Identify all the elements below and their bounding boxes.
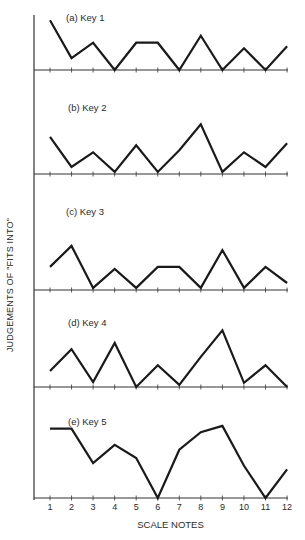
panel-label-a: (a) Key 1 [66,12,105,23]
x-tick-label: 1 [47,502,52,512]
data-line [50,20,287,70]
panel-3 [34,246,288,293]
panel-1 [34,20,288,72]
x-tick-label: 9 [220,502,225,512]
data-line [50,330,287,387]
y-axis-label: JUDGEMENTS OF "FITS INTO" [5,218,15,352]
x-tick-label: 12 [282,502,292,512]
panels-group [34,20,288,500]
x-tick-label: 10 [239,502,249,512]
x-tick-label: 7 [177,502,182,512]
x-tick-label: 3 [91,502,96,512]
panel-5 [34,426,288,501]
panel-label-b: (b) Key 2 [68,102,107,113]
x-tick-label: 2 [69,502,74,512]
panel-2 [34,124,288,176]
data-line [50,426,287,498]
panel-label-d: (d) Key 4 [68,317,107,328]
x-tick-label: 6 [155,502,160,512]
data-line [50,124,287,172]
x-axis-label: SCALE NOTES [0,519,305,530]
x-tick-label: 11 [261,502,270,512]
data-line [50,246,287,288]
x-tick-label: 4 [112,502,117,512]
multi-panel-line-chart [0,0,305,540]
x-tick-label: 5 [134,502,139,512]
panel-label-c: (c) Key 3 [66,206,104,217]
panel-label-e: (e) Key 5 [68,416,107,427]
x-tick-label: 8 [198,502,203,512]
panel-4 [34,330,288,389]
